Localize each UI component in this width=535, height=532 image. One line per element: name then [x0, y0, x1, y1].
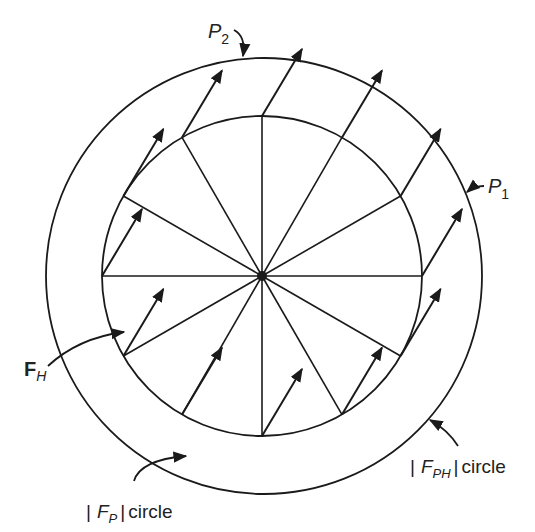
spoke: [262, 276, 342, 415]
spoke: [262, 137, 342, 276]
svg-text:P2: P2: [208, 20, 229, 47]
p2-pointer-arrow: [234, 30, 244, 56]
fh-vector-arrow: [182, 348, 222, 415]
vector-diagram: P2 P1 FH |FPH|circle |FP|circle: [0, 0, 535, 532]
spoke: [182, 137, 262, 276]
label-fph-circle: |FPH|circle: [410, 456, 506, 481]
svg-text:|FP|circle: |FP|circle: [86, 501, 173, 526]
label-fh: FH: [24, 358, 47, 384]
spoke: [262, 276, 401, 356]
fh-vector-arrow: [123, 289, 163, 356]
svg-text:|FPH|circle: |FPH|circle: [410, 456, 506, 481]
fph-pointer-arrow: [430, 420, 458, 446]
spoke: [123, 276, 262, 356]
fh-vector-arrow: [422, 209, 462, 276]
spoke: [262, 196, 401, 276]
fh-vector-arrow: [102, 209, 142, 276]
label-fp-circle: |FP|circle: [86, 501, 173, 526]
p1-pointer-arrow: [467, 186, 484, 192]
fh-vector-arrow: [401, 129, 441, 196]
label-p2: P2: [208, 20, 229, 47]
fh-vector-arrow: [123, 129, 163, 196]
fh-vector-arrow: [342, 348, 382, 415]
fh-vector-arrow: [262, 369, 302, 436]
label-p1: P1: [488, 175, 509, 202]
svg-text:FH: FH: [24, 358, 47, 384]
svg-text:P1: P1: [488, 175, 509, 202]
spoke: [123, 196, 262, 276]
center-point: [257, 271, 267, 281]
